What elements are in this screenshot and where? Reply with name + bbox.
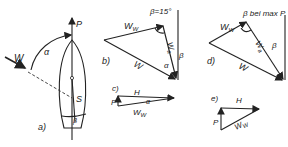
h-label: H xyxy=(236,96,242,105)
wind-label: W xyxy=(14,53,25,64)
panel-b-label: b) xyxy=(102,56,110,66)
p-label: P xyxy=(76,19,82,29)
angle-arc xyxy=(241,28,251,32)
panel-b-title: β=15° xyxy=(149,7,172,16)
ww-label: WW xyxy=(133,108,148,118)
panel-e: e) H P WW xyxy=(211,94,259,133)
panel-a-label: a) xyxy=(38,122,46,132)
panel-d-label: d) xyxy=(207,56,215,66)
w-label: W xyxy=(132,59,146,73)
h-label: H xyxy=(134,88,140,97)
ww-label: WW xyxy=(124,21,140,32)
ww-label: WW xyxy=(233,118,250,133)
sail-vector-diagram: W α P S β a) β=15° WW Wa W β α b) c) H P… xyxy=(0,0,288,147)
wa-label: Wa xyxy=(164,41,177,55)
panel-d: β bei max P WW Wa W β d) xyxy=(207,9,286,80)
panel-c-label: c) xyxy=(112,84,119,93)
alpha-label: α xyxy=(164,61,169,70)
panel-d-title: β bei max P xyxy=(242,9,286,18)
h-vector xyxy=(221,108,259,109)
p-label: P xyxy=(111,98,117,107)
mast-icon xyxy=(70,76,73,79)
p-label: P xyxy=(213,118,219,127)
beta-label: β xyxy=(271,41,277,50)
wa-vector xyxy=(246,22,283,79)
alpha-label: α xyxy=(44,47,50,57)
right-angle-arc xyxy=(155,28,164,33)
wind-dashed-line xyxy=(28,72,72,98)
panel-b: β=15° WW Wa W β α b) xyxy=(102,7,184,80)
beta-label: β xyxy=(72,117,77,125)
s-label: S xyxy=(76,94,82,104)
ww-label: WW xyxy=(220,22,236,33)
beta-label: β xyxy=(178,51,184,60)
panel-e-label: e) xyxy=(211,94,218,103)
panel-c: c) H P WW α xyxy=(111,84,174,118)
panel-a: W α P S β a) xyxy=(5,18,86,140)
